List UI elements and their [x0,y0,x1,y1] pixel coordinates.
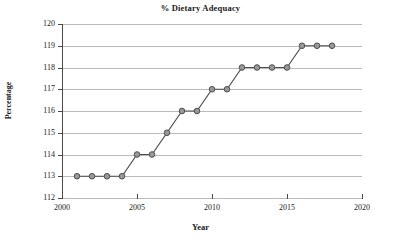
y-tick-mark [58,46,63,47]
y-tick-mark [58,24,63,25]
x-tick-mark [137,194,138,199]
x-tick-label: 2020 [342,203,382,212]
gridline-y [62,24,362,25]
x-tick-mark [287,194,288,199]
y-axis-label: Percentage [4,66,13,136]
page-title: % Dietary Adequacy [0,3,401,13]
gridline-y [62,133,362,134]
y-tick-label: 112 [25,193,55,202]
y-tick-mark [58,68,63,69]
x-tick-mark [62,194,63,199]
x-axis-label: Year [0,222,401,232]
gridline-y [62,68,362,69]
y-tick-label: 115 [25,128,55,137]
x-tick-label: 2005 [117,203,157,212]
gridline-y [62,176,362,177]
y-tick-label: 116 [25,106,55,115]
x-tick-label: 2015 [267,203,307,212]
y-tick-label: 120 [25,19,55,28]
x-tick-label: 2000 [42,203,82,212]
y-tick-label: 119 [25,41,55,50]
y-tick-mark [58,155,63,156]
y-tick-mark [58,176,63,177]
gridline-y [62,155,362,156]
y-tick-label: 113 [25,171,55,180]
y-tick-mark [58,89,63,90]
y-tick-mark [58,133,63,134]
gridline-y [62,46,362,47]
y-tick-label: 118 [25,63,55,72]
y-tick-mark [58,111,63,112]
y-tick-label: 117 [25,84,55,93]
plot-area [62,24,362,198]
x-tick-mark [212,194,213,199]
chart-screenshot: % Dietary Adequacy Percentage Year 11211… [0,0,401,241]
x-tick-label: 2010 [192,203,232,212]
y-tick-label: 114 [25,150,55,159]
gridline-y [62,89,362,90]
x-tick-mark [362,194,363,199]
gridline-y [62,111,362,112]
